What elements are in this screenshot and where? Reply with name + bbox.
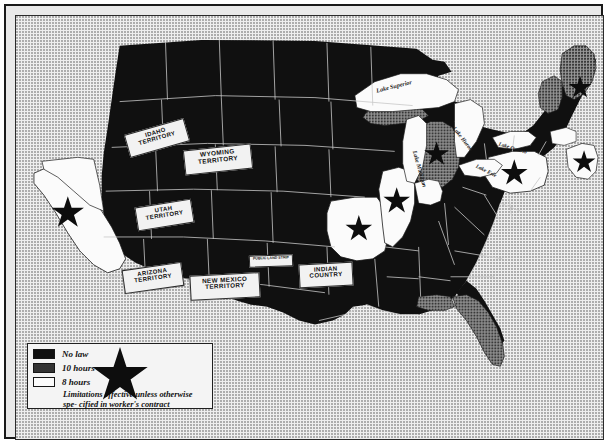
star-icon-california xyxy=(52,196,84,227)
star-icon xyxy=(28,344,212,408)
legend-item-star-note: Limitations effective unless otherwise s… xyxy=(33,390,207,410)
star-icon-michigan xyxy=(424,141,449,164)
star-icon-pennsylvania xyxy=(501,159,528,184)
map-inner-frame: IDAHO TERRITORY WYOMING TERRITORY UTAH T… xyxy=(15,15,604,440)
star-icon-new-jersey xyxy=(573,150,596,172)
star-icon-missouri xyxy=(346,215,373,240)
map-canvas: IDAHO TERRITORY WYOMING TERRITORY UTAH T… xyxy=(16,16,603,439)
map-outer-frame: IDAHO TERRITORY WYOMING TERRITORY UTAH T… xyxy=(4,4,603,439)
star-icon-maine xyxy=(569,76,592,98)
map-legend: No law 10 hours 8 hours Limitations effe… xyxy=(27,343,213,409)
map-screenshot: IDAHO TERRITORY WYOMING TERRITORY UTAH T… xyxy=(0,0,607,443)
star-icon-illinois xyxy=(383,187,410,212)
